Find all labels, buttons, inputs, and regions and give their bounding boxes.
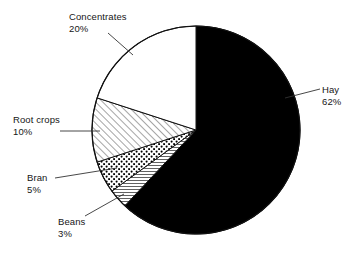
pie-label-bran-value: 5% (27, 184, 47, 196)
pie-label-concentrates: Concentrates 20% (69, 11, 127, 34)
pie-slices (92, 26, 300, 234)
pie-label-hay: Hay 62% (322, 84, 341, 107)
pie-label-root-crops-value: 10% (13, 126, 60, 138)
pie-label-root-crops-name: Root crops (13, 114, 60, 126)
pie-label-concentrates-value: 20% (69, 23, 127, 35)
pie-label-hay-value: 62% (322, 96, 341, 108)
pie-label-hay-name: Hay (322, 84, 341, 96)
leader-line-concentrates (108, 33, 133, 55)
pie-label-beans-name: Beans (58, 216, 85, 228)
pie-label-beans: Beans 3% (58, 216, 85, 239)
leader-line-beans (85, 194, 124, 216)
pie-label-beans-value: 3% (58, 228, 85, 240)
pie-label-root-crops: Root crops 10% (13, 114, 60, 137)
pie-label-concentrates-name: Concentrates (69, 11, 127, 23)
pie-chart-figure: Concentrates 20% Hay 62% Root crops 10% … (0, 0, 358, 259)
pie-label-bran: Bran 5% (27, 172, 47, 195)
pie-label-bran-name: Bran (27, 172, 47, 184)
